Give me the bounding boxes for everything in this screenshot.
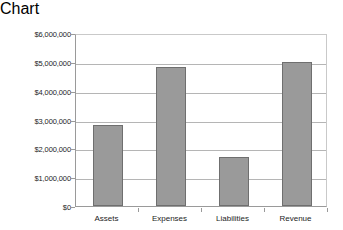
- bar-liabilities: [219, 157, 249, 206]
- x-axis-tick-label: Liabilities: [201, 214, 264, 223]
- y-axis-tick-label: $3,000,000: [34, 116, 71, 125]
- bar-chart: $0$1,000,000$2,000,000$3,000,000$4,000,0…: [0, 18, 343, 230]
- bar-slot: [139, 35, 202, 206]
- x-axis-tick-label: Assets: [75, 214, 138, 223]
- x-axis-separator: [264, 208, 265, 212]
- bar-revenue: [282, 62, 312, 206]
- x-axis-separator: [201, 208, 202, 212]
- x-axis-separator: [327, 208, 328, 212]
- x-axis-tick-label: Expenses: [138, 214, 201, 223]
- x-axis-separator: [138, 208, 139, 212]
- y-axis-tick-label: $5,000,000: [34, 58, 71, 67]
- bar-slot: [202, 35, 265, 206]
- bar-slot: [265, 35, 328, 206]
- bar-assets: [93, 125, 123, 206]
- bar-expenses: [156, 67, 186, 206]
- y-axis-tick-mark: [70, 207, 75, 208]
- bar-slot: [76, 35, 139, 206]
- y-axis-tick-label: $4,000,000: [34, 87, 71, 96]
- y-axis-tick-label: $1,000,000: [34, 174, 71, 183]
- y-axis-tick-label: $6,000,000: [34, 30, 71, 39]
- y-axis-tick-label: $2,000,000: [34, 145, 71, 154]
- x-axis-tick-label: Revenue: [264, 214, 327, 223]
- plot-area: [75, 34, 327, 207]
